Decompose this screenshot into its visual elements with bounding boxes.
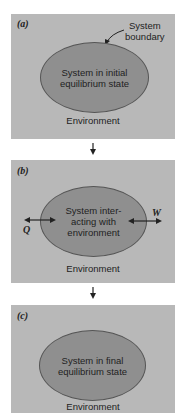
work-label: W	[152, 207, 161, 218]
environment-label-c: Environment	[11, 401, 175, 412]
panel-label-c: (c)	[17, 310, 28, 321]
system-ellipse-final: System in final equilibrium state	[39, 330, 146, 401]
down-arrow-icon	[89, 287, 97, 299]
environment-label-a: Environment	[11, 115, 175, 126]
system-ellipse-initial: System in initial equilibrium state	[40, 42, 149, 113]
system-text-final: System in final equilibrium state	[58, 355, 127, 377]
panel-interacting-state: (b) System inter- acting with environmen…	[11, 160, 175, 283]
system-text-initial: System in initial equilibrium state	[60, 67, 129, 89]
panel-final-state: (c) System in final equilibrium state En…	[11, 305, 175, 413]
environment-label-b: Environment	[11, 263, 175, 274]
down-arrow-icon	[89, 143, 97, 155]
panel-initial-state: (a) System boundary System in initial eq…	[11, 14, 175, 139]
heat-label: Q	[23, 224, 30, 235]
